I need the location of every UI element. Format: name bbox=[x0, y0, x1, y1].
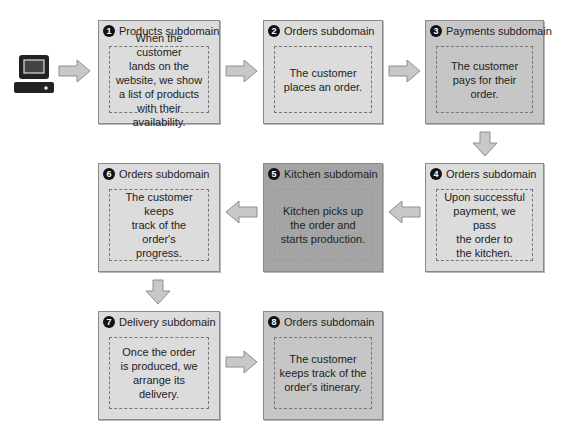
step-7-delivery-subdomain: 7 Delivery subdomain Once the order is p… bbox=[98, 311, 220, 420]
step-description: The customer keeps track of the order's … bbox=[109, 189, 209, 261]
step-description: The customer keeps track of the order's … bbox=[274, 337, 372, 409]
step-number-badge: 5 bbox=[268, 168, 280, 180]
arrow-left-icon bbox=[388, 200, 421, 224]
step-title-label: Orders subdomain bbox=[119, 168, 210, 180]
step-title: 5 Kitchen subdomain bbox=[268, 168, 378, 180]
step-number-badge: 2 bbox=[268, 25, 280, 37]
step-description: Kitchen picks up the order and starts pr… bbox=[274, 189, 372, 261]
arrow-left-icon bbox=[225, 200, 258, 224]
step-description: Upon successful payment, we pass the ord… bbox=[436, 189, 533, 261]
arrow-down-icon bbox=[472, 131, 498, 157]
step-title-label: Orders subdomain bbox=[284, 25, 375, 37]
step-5-kitchen-subdomain: 5 Kitchen subdomain Kitchen picks up the… bbox=[263, 163, 383, 272]
step-3-payments-subdomain: 3 Payments subdomain The customer pays f… bbox=[425, 20, 544, 124]
step-title: 3 Payments subdomain bbox=[430, 25, 552, 37]
step-title: 6 Orders subdomain bbox=[103, 168, 210, 180]
step-number-badge: 7 bbox=[103, 316, 115, 328]
arrow-right-icon bbox=[225, 59, 258, 83]
arrow-right-icon bbox=[225, 350, 258, 374]
arrow-down-icon bbox=[145, 279, 171, 305]
step-6-orders-subdomain: 6 Orders subdomain The customer keeps tr… bbox=[98, 163, 220, 272]
arrow-right-icon bbox=[388, 59, 421, 83]
step-number-badge: 8 bbox=[268, 316, 280, 328]
step-1-products-subdomain: 1 Products subdomain When the customer l… bbox=[98, 20, 220, 124]
step-description: The customer pays for their order. bbox=[436, 46, 533, 113]
step-8-orders-subdomain: 8 Orders subdomain The customer keeps tr… bbox=[263, 311, 383, 420]
step-2-orders-subdomain: 2 Orders subdomain The customer places a… bbox=[263, 20, 383, 124]
step-title-label: Payments subdomain bbox=[446, 25, 552, 37]
step-title: 4 Orders subdomain bbox=[430, 168, 537, 180]
step-title-label: Kitchen subdomain bbox=[284, 168, 378, 180]
step-description: The customer places an order. bbox=[274, 46, 372, 113]
arrow-right-icon bbox=[58, 59, 91, 83]
step-title: 8 Orders subdomain bbox=[268, 316, 375, 328]
step-description: When the customer lands on the website, … bbox=[109, 46, 209, 113]
step-number-badge: 6 bbox=[103, 168, 115, 180]
step-4-orders-subdomain: 4 Orders subdomain Upon successful payme… bbox=[425, 163, 544, 272]
step-title-label: Orders subdomain bbox=[284, 316, 375, 328]
step-title: 7 Delivery subdomain bbox=[103, 316, 216, 328]
step-description: Once the order is produced, we arrange i… bbox=[109, 337, 209, 409]
step-number-badge: 4 bbox=[430, 168, 442, 180]
step-title-label: Orders subdomain bbox=[446, 168, 537, 180]
step-title: 2 Orders subdomain bbox=[268, 25, 375, 37]
computer-icon bbox=[14, 55, 54, 93]
step-title-label: Delivery subdomain bbox=[119, 316, 216, 328]
step-number-badge: 3 bbox=[430, 25, 442, 37]
